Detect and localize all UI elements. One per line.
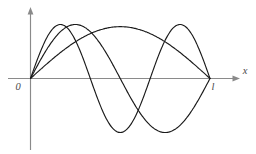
y-axis-arrowhead — [28, 7, 34, 15]
x-axis-arrowhead — [233, 76, 241, 82]
wave-modes-figure: 0 l x — [0, 0, 256, 154]
wave-modes-plot: 0 l x — [0, 0, 256, 154]
length-label: l — [212, 81, 215, 92]
x-axis-label: x — [242, 65, 248, 76]
origin-label: 0 — [15, 81, 21, 92]
